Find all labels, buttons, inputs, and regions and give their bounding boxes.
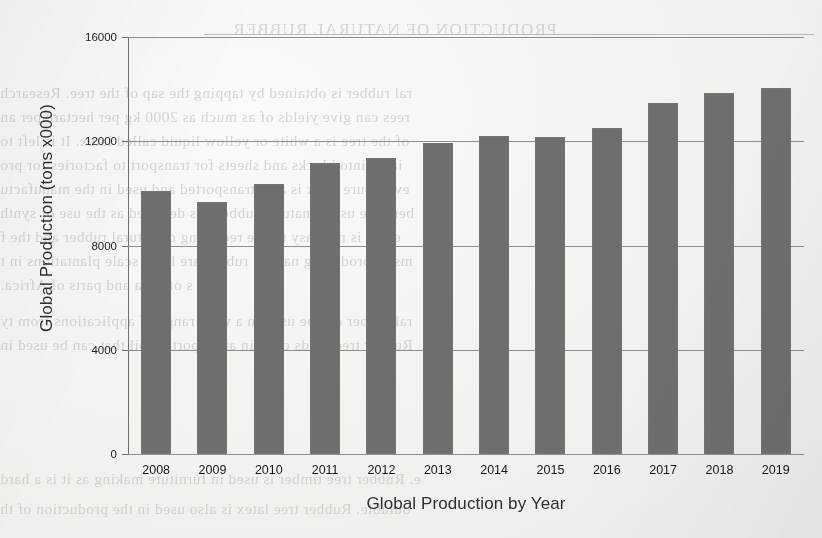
bar-slot: 2011 [297,37,353,454]
plot-area: 0400080001200016000 20082009201020112012… [128,37,804,454]
bar-slot: 2013 [410,37,466,454]
x-axis-tick-label: 2013 [424,463,452,477]
bar[interactable] [648,103,678,454]
x-axis-tick-label: 2016 [593,463,621,477]
x-axis-tick-label: 2017 [649,463,677,477]
gridline [128,454,804,455]
bar-slot: 2014 [466,37,522,454]
x-axis-tick-label: 2018 [706,463,734,477]
x-axis-tick-label: 2010 [255,463,283,477]
bar-slot: 2010 [241,37,297,454]
x-axis-tick-label: 2011 [312,463,339,477]
bar-slot: 2015 [522,37,578,454]
bar-slot: 2017 [635,37,691,454]
bar[interactable] [761,88,791,454]
x-axis-tick-label: 2012 [368,463,396,477]
bar-slot: 2018 [691,37,747,454]
scanned-page-background: PRODUCTION OF NATURAL RUBBER ral rubber … [0,0,822,538]
bar[interactable] [535,137,565,454]
y-axis-tick [122,454,128,455]
x-axis-tick-label: 2014 [480,463,508,477]
y-axis-tick-label: 0 [111,448,117,460]
y-axis-title: Global Production (tons x000) [37,53,57,383]
bar-chart: Global Production (tons x000) 0400080001… [0,0,822,538]
bar[interactable] [197,202,227,454]
x-axis-tick-label: 2019 [762,463,790,477]
bar-slot: 2009 [184,37,240,454]
bar[interactable] [254,184,284,454]
y-axis-tick-label: 12000 [85,135,117,147]
bar[interactable] [141,191,171,454]
bar[interactable] [704,93,734,454]
x-axis-title: Global Production by Year [128,494,804,514]
bar[interactable] [310,163,340,454]
x-axis-tick-label: 2008 [142,463,170,477]
bar-series: 2008200920102011201220132014201520162017… [128,37,804,454]
bar[interactable] [479,136,509,454]
bar-slot: 2008 [128,37,184,454]
y-axis-tick-label: 16000 [85,31,117,43]
bar-slot: 2012 [353,37,409,454]
x-axis-tick-label: 2009 [199,463,227,477]
y-axis-tick-label: 8000 [91,240,117,252]
bar[interactable] [423,143,453,454]
bar-slot: 2019 [748,37,804,454]
y-axis-tick-label: 4000 [91,344,117,356]
x-axis-tick-label: 2015 [537,463,565,477]
bar[interactable] [592,128,622,454]
bar-slot: 2016 [579,37,635,454]
bar[interactable] [366,158,396,454]
